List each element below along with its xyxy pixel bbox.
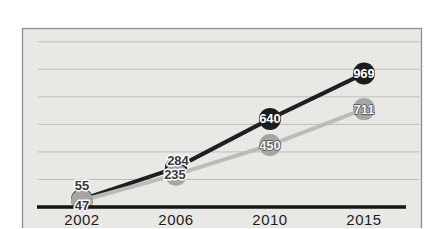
dark-series-value-label: 640 [259,111,281,126]
light-series-value-label: 235 [164,167,186,182]
light-series-value-label: 450 [259,138,281,153]
scanned-line-chart-figure: 55284640969472354507112002200620102015 [0,0,438,228]
x-tick-label: 2015 [346,211,381,228]
chart-root: 55284640969472354507112002200620102015 [23,29,422,229]
x-tick-label: 2010 [252,211,287,228]
light-series-value-label: 711 [354,102,375,117]
dark-series-value-label: 284 [167,153,189,168]
x-tick-label: 2002 [64,211,99,228]
dark-series-value-label: 55 [75,178,89,193]
x-tick-label: 2006 [158,211,193,228]
dark-series-value-label: 969 [353,66,375,81]
line-chart-svg: 55284640969472354507112002200620102015 [0,0,438,228]
